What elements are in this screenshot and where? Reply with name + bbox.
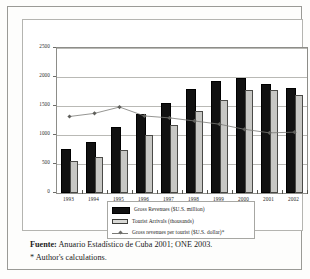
x-tick-mark <box>307 190 308 194</box>
chart-legend: Gross Revenues ($U.S. million) Tourist A… <box>107 201 255 239</box>
figure-page: 05001000150020002500 1993199419951996199… <box>0 0 310 279</box>
bar-tourist-arrivals <box>145 135 153 193</box>
bar-tourist-arrivals <box>120 150 128 193</box>
legend-label-tourist-arrivals: Tourist Arrivals (thousands) <box>132 219 194 224</box>
bar-tourist-arrivals <box>245 90 253 193</box>
x-tick-mark <box>257 190 258 194</box>
bar-tourist-arrivals <box>270 90 278 193</box>
x-tick-mark <box>182 190 183 194</box>
footer-source-line: Fuente: Anuario Estadístico de Cuba 2001… <box>30 239 292 251</box>
x-axis-label: 2001 <box>257 197 281 202</box>
y-tick-label: 2000 <box>23 73 50 78</box>
legend-item-revenues-per-tourist: Gross revenues per tourist ($U.S. dollar… <box>112 228 251 239</box>
y-tick-label: 500 <box>23 160 50 165</box>
y-tick-label: 1000 <box>23 131 50 136</box>
plot-area <box>56 47 308 194</box>
figure-footer: Fuente: Anuario Estadístico de Cuba 2001… <box>30 239 292 264</box>
y-tick-label: 0 <box>23 189 50 194</box>
x-tick-mark <box>282 190 283 194</box>
y-tick-mark <box>53 134 56 135</box>
bar-tourist-arrivals <box>195 111 203 193</box>
bar-tourist-arrivals <box>295 95 303 193</box>
legend-label-gross-revenues: Gross Revenues ($U.S. million) <box>134 207 205 212</box>
x-tick-mark <box>207 190 208 194</box>
x-tick-mark <box>157 190 158 194</box>
figure-outer-frame: 05001000150020002500 1993199419951996199… <box>7 6 302 270</box>
bar-tourist-arrivals <box>220 100 228 193</box>
chart-card: 05001000150020002500 1993199419951996199… <box>22 19 303 231</box>
footer-source-text: Anuario Estadístico de Cuba 2001; ONE 20… <box>57 240 213 249</box>
y-tick-label: 2500 <box>23 44 50 49</box>
x-axis-label: 1993 <box>57 197 81 202</box>
legend-swatch-line-marker-icon <box>112 230 128 236</box>
y-tick-mark <box>53 192 56 193</box>
legend-swatch-black-bar-icon <box>112 207 130 214</box>
y-tick-mark <box>53 47 56 48</box>
legend-item-tourist-arrivals: Tourist Arrivals (thousands) <box>112 216 251 227</box>
x-axis-label: 1994 <box>82 197 106 202</box>
x-axis-label: 2002 <box>282 197 306 202</box>
legend-item-gross-revenues: Gross Revenues ($U.S. million) <box>112 205 251 216</box>
legend-label-revenues-per-tourist: Gross revenues per tourist ($U.S. dollar… <box>132 230 224 235</box>
x-tick-mark <box>107 190 108 194</box>
bar-tourist-arrivals <box>95 157 103 193</box>
legend-swatch-gray-bar-icon <box>112 219 128 224</box>
y-tick-mark <box>53 76 56 77</box>
x-tick-mark <box>82 190 83 194</box>
bar-tourist-arrivals <box>170 125 178 193</box>
footer-source-label: Fuente: <box>30 240 57 249</box>
y-tick-label: 1500 <box>23 102 50 107</box>
bar-tourist-arrivals <box>70 161 78 193</box>
bars-layer <box>57 48 307 193</box>
footer-note-line: * Author's calculations. <box>30 252 292 264</box>
y-tick-mark <box>53 163 56 164</box>
x-tick-mark <box>132 190 133 194</box>
y-tick-mark <box>53 105 56 106</box>
x-tick-mark <box>232 190 233 194</box>
